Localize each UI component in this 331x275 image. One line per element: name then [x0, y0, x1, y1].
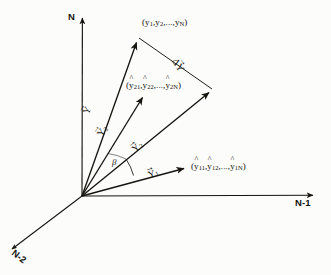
- sub-1n: 1N: [235, 164, 243, 171]
- yhat-12: ^y: [207, 162, 212, 171]
- point-label-observed: (y1,y2,...,yN): [142, 18, 187, 28]
- hat-accent: ^: [143, 75, 147, 83]
- angle-arc-inner: [108, 154, 126, 160]
- angle-arc-beta: [126, 159, 134, 176]
- axis-label-n: N: [68, 12, 75, 22]
- yhat-11: ^y: [194, 162, 199, 171]
- angle-label-beta: β: [112, 158, 117, 167]
- yhat-2n: ^y: [165, 81, 170, 90]
- hat-accent: ^: [129, 75, 133, 83]
- paren-close: ): [178, 80, 181, 90]
- axis-n-minus-2: [12, 196, 82, 249]
- paren-close: ): [184, 17, 187, 27]
- ellipsis-1: ,...,: [163, 17, 175, 27]
- vector-diagram-svg: [0, 0, 331, 275]
- hat-accent: ^: [208, 156, 212, 164]
- ellipsis-1: ,...,: [154, 80, 166, 90]
- paren-close: ): [243, 161, 246, 171]
- yhat-1n: ^y: [230, 162, 235, 171]
- sub-2n: 2N: [170, 83, 178, 90]
- ellipsis-1: ,...,: [218, 161, 230, 171]
- hat-accent: ^: [166, 75, 170, 83]
- hat-accent: ^: [194, 156, 198, 164]
- axis-n-minus-1: [82, 195, 313, 196]
- diagram-canvas: N N-1 N-2 (y1,y2,...,yN) (^y21,^y22,...,…: [0, 0, 331, 275]
- point-label-fitted1: (^y11,^y12,...,^y1N): [191, 162, 246, 172]
- yhat-21: ^y: [129, 81, 134, 90]
- point-label-fitted2: (^y21,^y22,...,^y2N): [126, 81, 181, 91]
- yhat-22: ^y: [143, 81, 148, 90]
- axis-label-n-minus-1: N-1: [295, 198, 311, 208]
- hat-accent: ^: [231, 156, 235, 164]
